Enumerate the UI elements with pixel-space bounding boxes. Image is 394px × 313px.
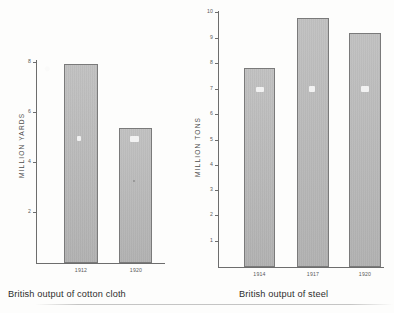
y-ticklabel-right-6: 6: [200, 111, 213, 116]
y-tick-right-2: [215, 215, 218, 216]
x-axis-line-right: [218, 267, 384, 268]
y-tick-right-6: [215, 114, 218, 115]
figure-page: 8 6 4 2 MILLION YARDS 1912 1920 British …: [0, 0, 394, 313]
y-ticklabel-left-2: 2: [20, 209, 31, 214]
x-ticklabel-1920: 1920: [349, 272, 381, 277]
bar-1920: [119, 128, 152, 263]
bar-1917: [297, 18, 329, 267]
y-tick-right-3: [215, 190, 218, 191]
x-ticklabel-1914: 1914: [244, 272, 275, 277]
y-tick-right-8: [215, 63, 218, 64]
x-ticklabel-1917: 1917: [297, 272, 329, 277]
y-ticklabel-right-3: 3: [200, 187, 213, 192]
y-ticklabel-right-10: 10: [200, 9, 213, 14]
caption-cotton-cloth: British output of cotton cloth: [8, 289, 126, 299]
page-rule: [35, 304, 393, 305]
y-tick-right-1: [215, 241, 218, 242]
y-tick-right-9: [215, 38, 218, 39]
y-tick-right-7: [215, 89, 218, 90]
y-ticklabel-left-8: 8: [20, 59, 31, 64]
y-ticklabel-right-5: 5: [200, 137, 213, 142]
bar-1914: [244, 68, 275, 267]
y-tick-right-5: [215, 140, 218, 141]
x-ticklabel-1912: 1912: [66, 268, 96, 273]
y-ticklabel-right-1: 1: [200, 238, 213, 243]
bar-1912: [64, 64, 98, 263]
y-ticklabel-right-9: 9: [200, 35, 213, 40]
chart-steel: 10 9 8 7 6 5 4 3 2 1 MILLION TONS 1914 1…: [186, 0, 394, 313]
y-ticklabel-right-7: 7: [200, 86, 213, 91]
y-tick-right-10: [215, 12, 218, 13]
y-tick-left-8: [33, 62, 36, 63]
y-ticklabel-right-2: 2: [200, 212, 213, 217]
x-axis-line-left: [36, 263, 165, 264]
caption-steel: British output of steel: [239, 289, 328, 299]
bar-1920: [349, 33, 381, 267]
y-ticklabel-right-8: 8: [200, 60, 213, 65]
y-ticklabel-right-4: 4: [200, 162, 213, 167]
y-axis-line-right: [218, 11, 219, 267]
y-axis-title-right: MILLION TONS: [194, 117, 201, 177]
y-tick-left-2: [33, 212, 36, 213]
x-ticklabel-1920: 1920: [121, 268, 151, 273]
y-tick-left-4: [33, 162, 36, 163]
chart-cotton-cloth: 8 6 4 2 MILLION YARDS 1912 1920 British …: [0, 0, 196, 313]
y-axis-title-left: MILLION YARDS: [18, 113, 25, 178]
y-axis-line-left: [36, 60, 37, 263]
y-tick-right-4: [215, 165, 218, 166]
y-tick-left-6: [33, 112, 36, 113]
